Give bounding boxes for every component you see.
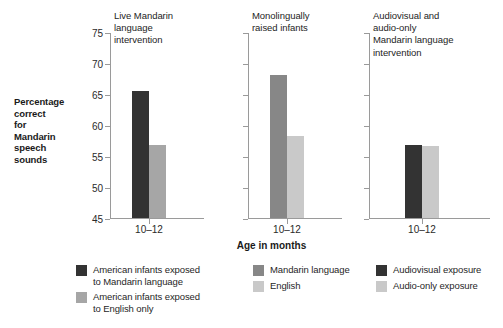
y-axis-tick [105, 126, 110, 127]
plot-area [369, 33, 490, 219]
y-axis-tick [364, 33, 369, 34]
bar-chart-figure: Percentage correct for Mandarin speech s… [0, 0, 503, 328]
y-axis-tick [243, 126, 248, 127]
legend-item: American infants exposed to English only [76, 291, 251, 314]
y-axis-tick [105, 95, 110, 96]
y-axis-tick [105, 64, 110, 65]
legend-column: Mandarin languageEnglish [253, 264, 373, 296]
y-axis-title-line: for [14, 119, 82, 131]
legend-swatch [253, 265, 264, 276]
x-axis-title: Age in months [0, 240, 503, 251]
legend-item: Audio-only exposure [376, 280, 503, 292]
legend-swatch [76, 265, 87, 276]
x-axis-tick [422, 219, 423, 224]
y-axis-tick [243, 188, 248, 189]
bar [422, 146, 439, 218]
legend-item: Audiovisual exposure [376, 264, 503, 276]
x-axis-line [248, 218, 342, 219]
x-axis-tick [149, 219, 150, 224]
y-axis-tick-label: 70 [92, 59, 103, 70]
y-axis-tick [243, 157, 248, 158]
y-axis-tick [243, 219, 248, 220]
y-axis-tick [364, 64, 369, 65]
y-axis-tick [364, 219, 369, 220]
y-axis-tick [243, 33, 248, 34]
y-axis-tick [364, 188, 369, 189]
legend-label: American infants exposed to English only [93, 291, 200, 314]
x-category-label: 10–12 [135, 224, 163, 235]
panel-title: Monolingually raised infants [252, 10, 309, 34]
bar [270, 75, 287, 218]
y-axis-tick-label: 45 [92, 214, 103, 225]
legend-item: American infants exposed to Mandarin lan… [76, 264, 251, 287]
y-axis-tick-label: 65 [92, 90, 103, 101]
y-axis-tick [105, 33, 110, 34]
legend-swatch [76, 292, 87, 303]
legend-item: Mandarin language [253, 264, 373, 276]
legend-label: Audio-only exposure [393, 280, 478, 292]
y-axis-tick-label: 60 [92, 121, 103, 132]
y-axis-line [248, 33, 249, 219]
y-axis-line [369, 33, 370, 219]
bar [149, 145, 166, 218]
plot-area [248, 33, 342, 219]
x-axis-line [369, 218, 490, 219]
bar [405, 145, 422, 218]
y-axis-tick [243, 64, 248, 65]
legend-label: American infants exposed to Mandarin lan… [93, 264, 200, 287]
legend-label: English [270, 280, 300, 292]
y-axis-title-line: Mandarin [14, 131, 82, 143]
chart-panel-monolingual: Monolingually raised infants 10–12 [220, 0, 342, 240]
y-axis-tick [364, 126, 369, 127]
chart-panel-live-mandarin: Live Mandarin language intervention 7570… [82, 0, 204, 240]
legend-swatch [376, 265, 387, 276]
bar-group [132, 91, 166, 218]
y-axis-tick [105, 157, 110, 158]
legend-column: American infants exposed to Mandarin lan… [76, 264, 251, 318]
legend-item: English [253, 280, 373, 292]
x-category-label: 10–12 [273, 224, 301, 235]
y-axis-title-line: Percentage [14, 96, 82, 108]
legend-label: Mandarin language [270, 264, 350, 276]
x-category-label: 10–12 [408, 224, 436, 235]
plot-area: 75706560555045 [110, 33, 204, 219]
y-axis-tick [364, 95, 369, 96]
legend-swatch [253, 281, 264, 292]
legend-label: Audiovisual exposure [393, 264, 481, 276]
y-axis-title: Percentage correct for Mandarin speech s… [14, 96, 82, 166]
y-axis-tick [243, 95, 248, 96]
y-axis-title-line: sounds [14, 154, 82, 166]
y-axis-title-line: speech [14, 142, 82, 154]
bar [287, 136, 304, 218]
y-axis-line [110, 33, 111, 219]
legend-column: Audiovisual exposureAudio-only exposure [376, 264, 503, 296]
y-axis-tick-label: 55 [92, 152, 103, 163]
x-axis-tick [287, 219, 288, 224]
y-axis-title-line: correct [14, 108, 82, 120]
bar [132, 91, 149, 218]
y-axis-tick [105, 188, 110, 189]
bar-group [270, 75, 304, 218]
y-axis-tick-label: 75 [92, 28, 103, 39]
chart-panel-audiovisual: Audiovisual and audio-only Mandarin lang… [345, 0, 490, 240]
x-axis-line [110, 218, 204, 219]
y-axis-tick [364, 157, 369, 158]
bar-group [405, 145, 439, 218]
legend-swatch [376, 281, 387, 292]
chart-legend: American infants exposed to Mandarin lan… [0, 264, 503, 328]
y-axis-tick-label: 50 [92, 183, 103, 194]
y-axis-tick [105, 219, 110, 220]
